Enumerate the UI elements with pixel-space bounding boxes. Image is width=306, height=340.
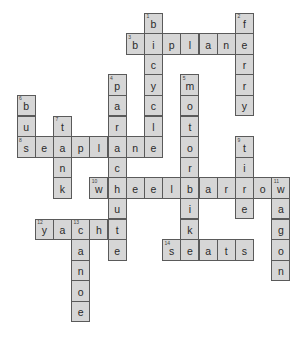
crossword-cell[interactable]: o <box>71 280 90 302</box>
cell-letter: b <box>18 101 35 112</box>
crossword-cell[interactable]: o <box>271 239 290 261</box>
crossword-cell[interactable]: r <box>217 177 236 199</box>
crossword-cell[interactable]: u <box>17 116 36 138</box>
crossword-cell[interactable]: 3b <box>126 33 145 55</box>
crossword-cell[interactable]: e <box>35 136 54 158</box>
crossword-cell[interactable]: l <box>89 136 108 158</box>
cell-letter: r <box>236 60 253 71</box>
cell-letter: t <box>54 122 71 133</box>
crossword-cell[interactable]: c <box>144 95 163 117</box>
crossword-cell[interactable]: n <box>271 260 290 282</box>
cell-letter: o <box>181 101 198 112</box>
cell-letter: m <box>181 81 198 92</box>
crossword-cell[interactable]: a <box>53 219 72 241</box>
cell-letter: a <box>272 204 289 215</box>
cell-letter: i <box>145 40 162 51</box>
crossword-cell[interactable]: n <box>217 33 236 55</box>
crossword-cell[interactable]: n <box>53 157 72 179</box>
crossword-cell[interactable]: k <box>53 177 72 199</box>
crossword-cell[interactable]: 4p <box>108 74 127 96</box>
crossword-cell[interactable]: o <box>180 95 199 117</box>
crossword-cell[interactable]: 6b <box>17 95 36 117</box>
cell-letter: a <box>200 246 217 257</box>
crossword-cell[interactable]: e <box>144 136 163 158</box>
crossword-cell[interactable]: t <box>180 116 199 138</box>
crossword-cell[interactable]: e <box>235 198 254 220</box>
crossword-cell[interactable]: n <box>71 260 90 282</box>
crossword-cell[interactable]: 8s <box>17 136 36 158</box>
crossword-cell[interactable]: g <box>271 219 290 241</box>
crossword-cell[interactable]: b <box>180 177 199 199</box>
cell-letter: o <box>181 143 198 154</box>
crossword-cell[interactable]: i <box>180 198 199 220</box>
crossword-cell[interactable]: e <box>235 33 254 55</box>
crossword-cell[interactable]: 13c <box>71 219 90 241</box>
crossword-cell[interactable]: u <box>108 198 127 220</box>
cell-letter: r <box>181 163 198 174</box>
crossword-cell[interactable]: t <box>217 239 236 261</box>
crossword-cell[interactable]: e <box>144 177 163 199</box>
crossword-cell[interactable]: y <box>235 95 254 117</box>
crossword-cell[interactable]: r <box>235 54 254 76</box>
crossword-cell[interactable]: 9t <box>235 136 254 158</box>
crossword-cell[interactable]: 11w <box>271 177 290 199</box>
crossword-cell[interactable]: l <box>162 177 181 199</box>
crossword-cell[interactable]: p <box>71 136 90 158</box>
cell-letter: a <box>109 101 126 112</box>
cell-letter: n <box>272 266 289 277</box>
crossword-cell[interactable]: l <box>144 116 163 138</box>
crossword-cell[interactable]: a <box>108 136 127 158</box>
crossword-cell[interactable]: r <box>235 74 254 96</box>
crossword-cell[interactable]: a <box>108 95 127 117</box>
cell-letter: p <box>72 143 89 154</box>
crossword-cell[interactable]: i <box>144 33 163 55</box>
crossword-cell[interactable]: 2f <box>235 13 254 35</box>
crossword-cell[interactable]: e <box>108 239 127 261</box>
crossword-cell[interactable]: 14s <box>162 239 181 261</box>
cell-letter: h <box>90 225 107 236</box>
cell-letter: g <box>272 225 289 236</box>
cell-letter: c <box>109 163 126 174</box>
crossword-cell[interactable]: e <box>126 177 145 199</box>
crossword-cell[interactable]: a <box>199 239 218 261</box>
cell-letter: w <box>90 184 107 195</box>
crossword-cell[interactable]: c <box>108 157 127 179</box>
crossword-cell[interactable]: t <box>108 219 127 241</box>
crossword-cell[interactable]: 10w <box>89 177 108 199</box>
cell-letter: s <box>236 246 253 257</box>
crossword-cell[interactable]: a <box>71 239 90 261</box>
cell-letter: k <box>181 225 198 236</box>
crossword-cell[interactable]: o <box>253 177 272 199</box>
cell-letter: c <box>145 101 162 112</box>
crossword-cell[interactable]: r <box>108 116 127 138</box>
crossword-cell[interactable]: r <box>180 157 199 179</box>
crossword-cell[interactable]: h <box>108 177 127 199</box>
cell-letter: r <box>109 122 126 133</box>
crossword-cell[interactable]: 1b <box>144 13 163 35</box>
crossword-cell[interactable]: o <box>180 136 199 158</box>
crossword-cell[interactable]: e <box>180 239 199 261</box>
crossword-cell[interactable]: l <box>180 33 199 55</box>
crossword-cell[interactable]: h <box>89 219 108 241</box>
crossword-cell[interactable]: 5m <box>180 74 199 96</box>
crossword-cell[interactable]: s <box>235 239 254 261</box>
crossword-cell[interactable]: 12y <box>35 219 54 241</box>
crossword-cell[interactable]: k <box>180 219 199 241</box>
crossword-cell[interactable]: y <box>144 74 163 96</box>
cell-letter: l <box>163 184 180 195</box>
crossword-cell[interactable]: a <box>199 33 218 55</box>
cell-letter: e <box>145 184 162 195</box>
crossword-cell[interactable]: n <box>126 136 145 158</box>
cell-letter: a <box>109 143 126 154</box>
crossword-cell[interactable]: a <box>53 136 72 158</box>
cell-letter: s <box>163 246 180 257</box>
crossword-cell[interactable]: i <box>235 157 254 179</box>
cell-letter: i <box>236 163 253 174</box>
crossword-cell[interactable]: r <box>235 177 254 199</box>
crossword-cell[interactable]: a <box>199 177 218 199</box>
crossword-cell[interactable]: c <box>144 54 163 76</box>
crossword-cell[interactable]: 7t <box>53 116 72 138</box>
crossword-cell[interactable]: p <box>162 33 181 55</box>
crossword-cell[interactable]: a <box>271 198 290 220</box>
crossword-cell[interactable]: e <box>71 301 90 323</box>
